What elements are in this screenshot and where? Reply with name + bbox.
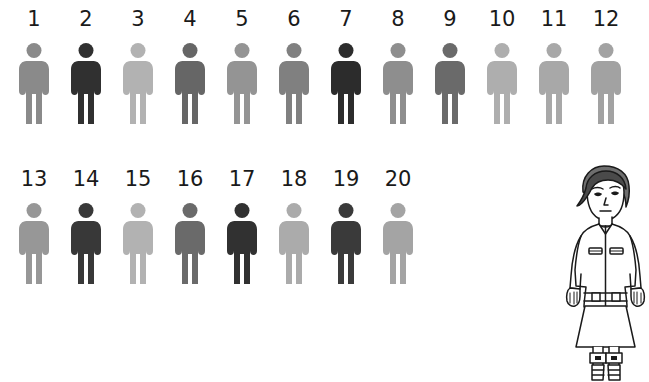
left-boot: [592, 365, 604, 380]
person-pictogram-icon: [589, 42, 623, 126]
pictogram-cell[interactable]: 12: [580, 6, 632, 126]
person-pictogram-icon: [121, 42, 155, 126]
pictogram-number-label: 15: [125, 166, 152, 192]
pictogram-cell[interactable]: 19: [320, 166, 372, 286]
pictogram-cell[interactable]: 4: [164, 6, 216, 126]
pictogram-cell[interactable]: 7: [320, 6, 372, 126]
character-illustration: [556, 162, 649, 382]
person-pictogram-icon: [173, 42, 207, 126]
pictogram-number-label: 11: [541, 6, 568, 32]
person-pictogram-icon: [225, 202, 259, 286]
person-pictogram-icon: [121, 202, 155, 286]
pictogram-number-label: 9: [443, 6, 456, 32]
belt-buckle-right: [612, 293, 620, 301]
left-hand: [567, 288, 580, 306]
pictogram-number-label: 4: [183, 6, 196, 32]
pictogram-cell[interactable]: 2: [60, 6, 112, 126]
pictogram-cell[interactable]: 20: [372, 166, 424, 286]
person-pictogram-icon: [173, 202, 207, 286]
pictogram-cell[interactable]: 5: [216, 6, 268, 126]
pictogram-number-label: 7: [339, 6, 352, 32]
pictogram-cell[interactable]: 13: [8, 166, 60, 286]
person-pictogram-icon: [69, 202, 103, 286]
right-hand: [631, 288, 644, 306]
pictogram-cell[interactable]: 6: [268, 6, 320, 126]
pictogram-cell[interactable]: 15: [112, 166, 164, 286]
person-pictogram-icon: [17, 42, 51, 126]
pictogram-row-1: 123456789101112: [8, 6, 632, 126]
pictogram-number-label: 14: [73, 166, 100, 192]
pictogram-cell[interactable]: 8: [372, 6, 424, 126]
pictogram-number-label: 1: [27, 6, 40, 32]
pictogram-number-label: 20: [385, 166, 412, 192]
person-pictogram-icon: [225, 42, 259, 126]
pictogram-canvas: 123456789101112 1314151617181920: [0, 0, 649, 382]
pictogram-number-label: 13: [21, 166, 48, 192]
pictogram-cell[interactable]: 9: [424, 6, 476, 126]
neck: [599, 217, 612, 226]
right-boot: [608, 365, 620, 380]
skirt: [576, 306, 635, 347]
pictogram-cell[interactable]: 1: [8, 6, 60, 126]
person-pictogram-icon: [485, 42, 519, 126]
person-pictogram-icon: [433, 42, 467, 126]
pictogram-cell[interactable]: 14: [60, 166, 112, 286]
person-pictogram-icon: [277, 42, 311, 126]
person-pictogram-icon: [17, 202, 51, 286]
pictogram-number-label: 17: [229, 166, 256, 192]
pictogram-number-label: 8: [391, 6, 404, 32]
pictogram-cell[interactable]: 16: [164, 166, 216, 286]
pictogram-cell[interactable]: 11: [528, 6, 580, 126]
person-pictogram-icon: [69, 42, 103, 126]
pictogram-number-label: 10: [489, 6, 516, 32]
pictogram-number-label: 19: [333, 166, 360, 192]
pictogram-number-label: 6: [287, 6, 300, 32]
pictogram-number-label: 18: [281, 166, 308, 192]
pictogram-cell[interactable]: 18: [268, 166, 320, 286]
person-pictogram-icon: [381, 42, 415, 126]
pictogram-cell[interactable]: 3: [112, 6, 164, 126]
pictogram-number-label: 12: [593, 6, 620, 32]
belt-buckle-left: [592, 293, 600, 301]
person-pictogram-icon: [277, 202, 311, 286]
person-pictogram-icon: [537, 42, 571, 126]
pictogram-number-label: 2: [79, 6, 92, 32]
person-pictogram-icon: [329, 42, 363, 126]
pictogram-cell[interactable]: 17: [216, 166, 268, 286]
pictogram-cell[interactable]: 10: [476, 6, 528, 126]
person-pictogram-icon: [381, 202, 415, 286]
person-pictogram-icon: [329, 202, 363, 286]
pictogram-number-label: 3: [131, 6, 144, 32]
pictogram-row-2: 1314151617181920: [8, 166, 424, 286]
pictogram-number-label: 16: [177, 166, 204, 192]
pictogram-number-label: 5: [235, 6, 248, 32]
